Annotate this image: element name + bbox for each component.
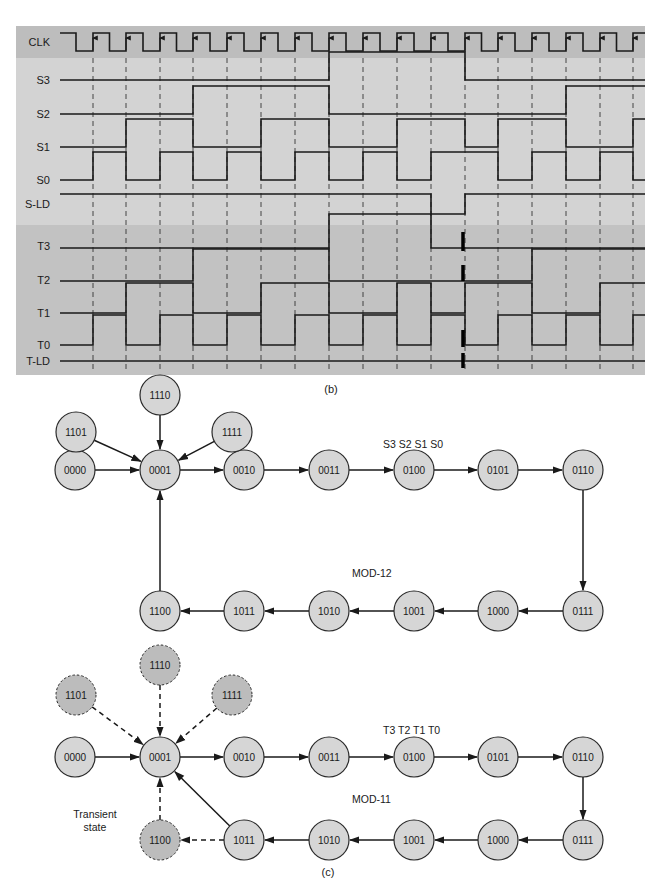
state-node-1011: 1011: [224, 820, 264, 860]
state-label: 0100: [403, 752, 426, 763]
state-node-0000: 0000: [55, 450, 95, 490]
state-label: 1010: [318, 835, 341, 846]
mod12-label: MOD-12: [352, 567, 392, 579]
state-label: 0001: [149, 465, 172, 476]
state-label: 0010: [233, 465, 256, 476]
state-label: 1011: [233, 835, 255, 846]
figure-canvas: CLKS3S2S1S0S-LDT3T2T1T0T-LD (b) 00: [0, 0, 660, 882]
state-node-0000: 0000: [55, 737, 95, 777]
state-node-1010: 1010: [309, 591, 349, 631]
state-node-1000: 1000: [478, 820, 518, 860]
state-node-1101: 1101: [56, 675, 96, 715]
state-label: 0100: [403, 465, 426, 476]
state-label: 1101: [65, 427, 87, 438]
signal-label-t0: T0: [37, 339, 50, 351]
state-label: 0011: [318, 752, 340, 763]
signal-label-s1: S1: [37, 141, 50, 153]
state-label: 0110: [572, 465, 594, 476]
state-node-1100: 1100: [140, 820, 180, 860]
state-label: 1110: [150, 660, 171, 671]
state-label: 1111: [222, 690, 242, 701]
mod11-states: 0000000100100011010001010110011110001001…: [55, 645, 603, 860]
signal-label-t1: T1: [37, 307, 50, 319]
state-node-1111: 1111: [212, 675, 252, 715]
state-node-0100: 0100: [394, 450, 434, 490]
state-node-0101: 0101: [478, 450, 518, 490]
mod12-bit-header: S3 S2 S1 S0: [383, 438, 443, 450]
state-node-1011: 1011: [224, 591, 264, 631]
transient-state-label-2: state: [84, 821, 107, 833]
state-node-1010: 1010: [309, 820, 349, 860]
state-node-0011: 0011: [309, 737, 349, 777]
mod12-states: 0000000100100011010001010110011110001001…: [55, 375, 603, 631]
signal-label-s0: S0: [37, 174, 50, 186]
signal-label-t-ld: T-LD: [26, 355, 50, 367]
state-node-0010: 0010: [224, 450, 264, 490]
state-label: 1001: [403, 835, 426, 846]
caption-b: (b): [324, 383, 337, 395]
state-node-1001: 1001: [394, 820, 434, 860]
state-node-0001: 0001: [140, 450, 180, 490]
state-node-1110: 1110: [140, 645, 180, 685]
state-diagram-mod11: 0000000100100011010001010110011110001001…: [55, 645, 603, 878]
state-label: 0011: [318, 465, 340, 476]
state-label: 0001: [149, 752, 172, 763]
state-label: 0101: [487, 752, 510, 763]
state-node-0001: 0001: [140, 737, 180, 777]
state-label: 1110: [150, 390, 171, 401]
state-node-0011: 0011: [309, 450, 349, 490]
state-node-0110: 0110: [563, 737, 603, 777]
state-node-0111: 0111: [563, 820, 603, 860]
state-node-1101: 1101: [56, 412, 96, 452]
state-node-1100: 1100: [140, 591, 180, 631]
state-diagram-mod12: 0000000100100011010001010110011110001001…: [55, 375, 603, 631]
transition-1101-to-0001: [92, 707, 143, 745]
s-counter-panel: [16, 58, 645, 225]
state-label: 0111: [573, 835, 594, 846]
state-node-1110: 1110: [140, 375, 180, 415]
transition-1111-to-0001: [176, 708, 217, 743]
caption-c: (c): [322, 866, 335, 878]
signal-label-clk: CLK: [29, 36, 51, 48]
state-node-1111: 1111: [212, 412, 252, 452]
mod12-transitions: [94, 415, 583, 611]
state-label: 0010: [233, 752, 256, 763]
state-label: 1100: [149, 606, 171, 617]
state-node-1000: 1000: [478, 591, 518, 631]
state-label: 1000: [487, 606, 510, 617]
signal-label-t3: T3: [37, 240, 50, 252]
state-node-0010: 0010: [224, 737, 264, 777]
state-label: 1011: [233, 606, 255, 617]
state-label: 0111: [573, 606, 594, 617]
transient-state-label-1: Transient: [73, 808, 116, 820]
state-label: 0000: [64, 752, 87, 763]
state-label: 0000: [64, 465, 87, 476]
transition-1011-to-0001: [175, 772, 230, 826]
mod11-bit-header: T3 T2 T1 T0: [383, 724, 440, 736]
signal-label-s2: S2: [37, 108, 50, 120]
state-label: 0110: [572, 752, 594, 763]
state-node-0111: 0111: [563, 591, 603, 631]
clk-band: [16, 26, 645, 58]
transition-1101-to-0001: [94, 440, 141, 461]
timing-diagram: CLKS3S2S1S0S-LDT3T2T1T0T-LD (b): [16, 26, 645, 395]
state-node-1001: 1001: [394, 591, 434, 631]
signal-label-t2: T2: [37, 274, 50, 286]
state-node-0110: 0110: [563, 450, 603, 490]
state-label: 1010: [318, 606, 341, 617]
state-label: 1001: [403, 606, 426, 617]
mod11-label: MOD-11: [352, 793, 391, 805]
signal-label-s-ld: S-LD: [25, 198, 50, 210]
state-label: 1111: [222, 427, 242, 438]
state-label: 1101: [65, 690, 87, 701]
state-label: 1100: [149, 835, 171, 846]
state-node-0101: 0101: [478, 737, 518, 777]
state-label: 0101: [487, 465, 510, 476]
transition-1111-to-0001: [179, 441, 215, 460]
state-node-0100: 0100: [394, 737, 434, 777]
state-label: 1000: [487, 835, 510, 846]
signal-label-s3: S3: [37, 74, 50, 86]
